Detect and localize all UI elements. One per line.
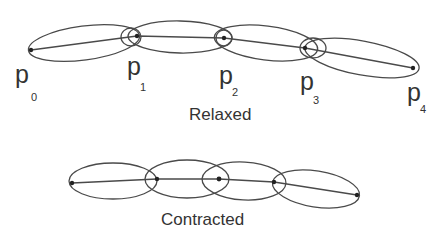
relaxed-point-2 bbox=[222, 36, 226, 40]
label-p4-letter: p bbox=[407, 78, 421, 106]
contracted-point-2 bbox=[217, 177, 222, 182]
label-p3-subscript: 3 bbox=[313, 95, 319, 106]
label-p0: p bbox=[15, 62, 29, 87]
relaxed-caption: Relaxed bbox=[189, 106, 251, 123]
contracted-point-1 bbox=[155, 177, 159, 181]
label-p0-letter: p bbox=[15, 60, 29, 88]
label-p1: p bbox=[127, 54, 141, 79]
label-p4-subscript: 4 bbox=[420, 104, 426, 115]
label-p3-letter: p bbox=[300, 67, 314, 95]
contracted-point-3 bbox=[272, 180, 276, 184]
label-p0-subscript: 0 bbox=[31, 92, 37, 103]
relaxed-point-3 bbox=[303, 46, 307, 50]
label-p1-subscript: 1 bbox=[140, 82, 146, 93]
label-p1-letter: p bbox=[127, 52, 141, 80]
contracted-caption: Contracted bbox=[161, 211, 244, 228]
contracted-point-0 bbox=[70, 181, 74, 185]
relaxed-point-1 bbox=[135, 34, 139, 38]
relaxed-point-4 bbox=[411, 66, 415, 70]
label-p3: p bbox=[300, 69, 314, 94]
label-p2-subscript: 2 bbox=[232, 87, 238, 98]
contracted-point-4 bbox=[355, 193, 359, 197]
label-p2-letter: p bbox=[219, 61, 233, 89]
relaxed-point-0 bbox=[29, 48, 33, 52]
label-p2: p bbox=[219, 63, 233, 88]
label-p4: p bbox=[407, 80, 421, 105]
